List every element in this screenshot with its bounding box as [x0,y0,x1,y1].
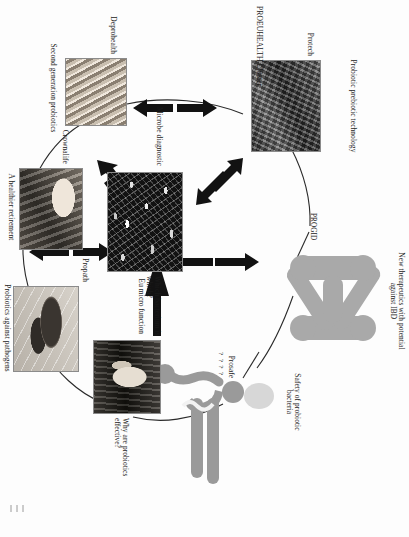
edge-progid-prosafe [257,296,293,368]
node-caption-protech: Probiotic prebiotic technology [349,54,357,158]
node-image-crownalife [19,168,83,250]
node-label-eu-micro-function: Eu micro function [137,278,145,334]
progid-leader-line [297,232,309,258]
node-label-protech: Protech [306,0,314,56]
node-label-crownalife: Crownalife [61,106,69,164]
node-label-deprohealth: Deprohealth [109,0,117,54]
node-caption-crownalife: A healthier retirement [7,158,15,256]
node-caption-microbe-diagnostic: Which bacterium is which? [144,276,161,338]
node-image-deprohealth [65,58,127,126]
cluster-diagram-canvas: PROEUHEALTH Cluster Protech Probiotic pr… [0,0,409,537]
figure-title: PROEUHEALTH Cluster [255,6,264,116]
page-edge-ticks [11,505,23,512]
node-label-propath: Propath [81,236,89,282]
node-label-progid: PROGID [309,213,317,257]
prosafe-question-marks: ? ? ? ? [218,336,225,376]
node-caption-deprohealth: Second generation probiotics [49,36,57,140]
node-image-eu-micro-function [93,340,161,414]
node-image-propath [13,286,79,372]
node-caption-propath: Probiotics against pathogens [3,274,11,382]
connector-overlay [0,0,409,537]
prosafe-leader-line [243,352,259,378]
prosafe-figure-graphic [155,364,274,484]
arrow-protech-microbe [196,158,243,205]
node-caption-eu-micro-function: Why are probiotics effective? [112,418,129,488]
progid-blob-graphic [284,255,383,341]
node-image-microbe-diagnostic [107,172,183,272]
edge-protech-progid [291,148,310,226]
figure-page: PROEUHEALTH Cluster Protech Probiotic pr… [0,0,409,537]
node-label-microbe-diagnostic: Microbe diagnostic [155,96,163,166]
node-caption-prosafe: Safety of probiotic bacteria [284,370,301,434]
node-caption-progid: New therapeutics with potential against … [388,246,405,356]
node-label-prosafe: Prosafe [227,330,235,378]
arrow-deprohealth-protech [133,99,217,117]
